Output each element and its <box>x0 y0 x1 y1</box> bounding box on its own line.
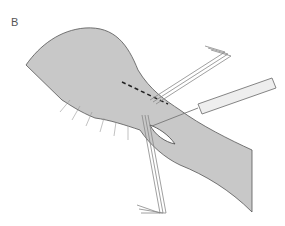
upper-retractor <box>150 46 231 104</box>
surgical-illustration <box>0 0 285 226</box>
scalpel <box>152 78 276 126</box>
tissue-body <box>26 28 252 212</box>
